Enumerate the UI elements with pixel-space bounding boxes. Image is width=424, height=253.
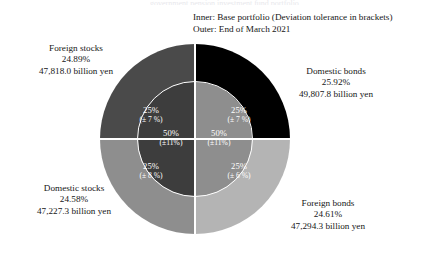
- callout-foreign-stocks: Foreign stocks 24.89% 47,818.0 billion y…: [10, 43, 142, 77]
- callout-domestic-bonds: Domestic bonds 25.92% 49,807.8 billion y…: [268, 66, 404, 100]
- callout-foreign-bonds-amount: 47,294.3 billion yen: [258, 221, 398, 232]
- caption-line-outer: Outer: End of March 2021: [193, 24, 393, 36]
- callout-domestic-bonds-name: Domestic bonds: [268, 66, 404, 77]
- callout-domestic-stocks: Domestic stocks 24.58% 47,227.3 billion …: [8, 183, 140, 217]
- callout-foreign-stocks-amount: 47,818.0 billion yen: [10, 66, 142, 77]
- callout-domestic-bonds-percent: 25.92%: [268, 77, 404, 88]
- outer-label-foreign-bonds: 25% (± 6 %): [212, 161, 266, 181]
- chart-page: government pension investment fund portf…: [0, 0, 424, 253]
- inner-label-stocks: 50% (±11%): [148, 128, 194, 148]
- callout-foreign-stocks-name: Foreign stocks: [10, 43, 142, 54]
- outer-label-domestic-bonds: 25% (± 7 %): [212, 105, 266, 125]
- callout-domestic-stocks-name: Domestic stocks: [8, 183, 140, 194]
- callout-domestic-bonds-amount: 49,807.8 billion yen: [268, 89, 404, 100]
- outer-label-foreign-stocks: 25% (± 7 %): [124, 105, 178, 125]
- callout-domestic-stocks-amount: 47,227.3 billion yen: [8, 206, 140, 217]
- outer-label-domestic-stocks: 25% (± 8 %): [124, 161, 178, 181]
- chart-caption: Inner: Base portfolio (Deviation toleran…: [193, 12, 393, 35]
- horizontal-separator: [100, 138, 290, 140]
- callout-foreign-bonds: Foreign bonds 24.61% 47,294.3 billion ye…: [258, 198, 398, 232]
- inner-label-bonds: 50% (±11%): [196, 128, 242, 148]
- caption-line-inner: Inner: Base portfolio (Deviation toleran…: [193, 12, 393, 24]
- cut-off-header-text: government pension investment fund portf…: [150, 0, 400, 5]
- callout-foreign-bonds-percent: 24.61%: [258, 209, 398, 220]
- callout-foreign-bonds-name: Foreign bonds: [258, 198, 398, 209]
- callout-foreign-stocks-percent: 24.89%: [10, 54, 142, 65]
- callout-domestic-stocks-percent: 24.58%: [8, 194, 140, 205]
